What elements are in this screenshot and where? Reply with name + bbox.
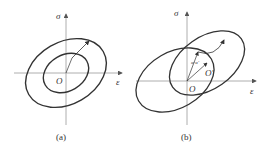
- y-label-b: σ: [174, 8, 179, 18]
- origin-label-a: O: [56, 76, 63, 86]
- initial-ellipse-b: [125, 35, 226, 125]
- radius-line-a: [66, 58, 72, 73]
- origin-label-b: O: [189, 84, 196, 94]
- radius-arrow-b: [187, 52, 198, 81]
- shifted-center-label: O': [205, 68, 214, 78]
- expansion-arrow-b: [198, 40, 224, 54]
- panel-a: σ ε O (a): [13, 11, 122, 142]
- panel-b: σ ε O O' α-α' (b): [125, 8, 257, 142]
- x-label-a: ε: [116, 77, 120, 87]
- vector-label: α-α': [191, 60, 200, 65]
- caption-a: (a): [56, 132, 66, 142]
- diagram-svg: σ ε O (a) σ ε O O' α-α' (b): [0, 0, 272, 155]
- figure: σ ε O (a) σ ε O O' α-α' (b): [0, 0, 272, 155]
- caption-b: (b): [181, 132, 192, 142]
- backstress-vector-b: [187, 63, 207, 81]
- y-label-a: σ: [56, 11, 61, 21]
- x-label-b: ε: [250, 86, 254, 96]
